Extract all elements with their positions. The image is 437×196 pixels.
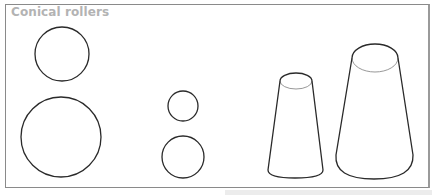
large-circle-bottom-left: [21, 97, 101, 177]
small-conical-roller: [268, 73, 323, 178]
small-circle-bottom-middle: [162, 136, 204, 178]
roller-diagram: [0, 0, 437, 196]
large-conical-roller: [336, 44, 413, 179]
small-circle-top-left: [35, 27, 89, 81]
small-circle-top-middle: [168, 91, 198, 121]
